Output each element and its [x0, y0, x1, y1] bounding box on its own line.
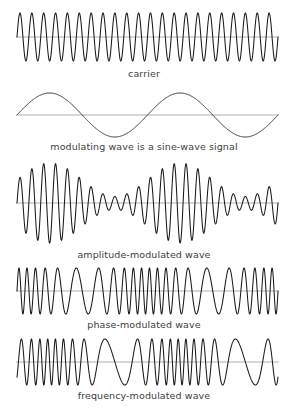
modulation-waveform-figure: carrier modulating wave is a sine-wave s…	[0, 0, 288, 414]
panel-carrier: carrier	[0, 8, 288, 66]
modulating-caption: modulating wave is a sine-wave signal	[0, 141, 288, 153]
panel-modulating: modulating wave is a sine-wave signal	[0, 86, 288, 142]
modulating-wave-plot	[0, 86, 288, 142]
carrier-caption: carrier	[0, 68, 288, 80]
carrier-wave-svg	[0, 8, 288, 66]
phase-modulated-wave-svg	[0, 265, 288, 317]
amplitude-modulated-caption: amplitude-modulated wave	[0, 249, 288, 261]
amplitude-modulated-wave-svg	[0, 160, 288, 246]
phase-modulated-wave-plot	[0, 265, 288, 317]
amplitude-modulated-wave-plot	[0, 160, 288, 246]
carrier-wave-plot	[0, 8, 288, 66]
phase-modulated-caption: phase-modulated wave	[0, 319, 288, 331]
panel-phase-modulated: phase-modulated wave	[0, 265, 288, 317]
panel-frequency-modulated: frequency-modulated wave	[0, 336, 288, 388]
frequency-modulated-wave-svg	[0, 336, 288, 388]
panel-amplitude-modulated: amplitude-modulated wave	[0, 160, 288, 246]
modulating-wave-svg	[0, 86, 288, 142]
frequency-modulated-wave-plot	[0, 336, 288, 388]
frequency-modulated-caption: frequency-modulated wave	[0, 390, 288, 402]
